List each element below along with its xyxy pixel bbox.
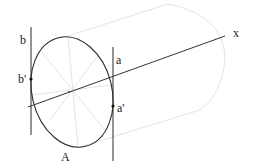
- label-b: b: [20, 33, 26, 47]
- point-center: [68, 91, 70, 93]
- ellipse-a: [20, 28, 125, 156]
- point-b-prime: [29, 77, 32, 80]
- point-a-prime: [111, 104, 114, 107]
- label-a: a: [116, 53, 122, 67]
- label-ellipse-a: A: [61, 150, 70, 164]
- label-x: x: [233, 26, 239, 40]
- label-b-prime: b': [18, 72, 26, 86]
- construction-lines: [31, 4, 225, 148]
- label-a-prime: a': [117, 101, 125, 115]
- ellipse-projection-diagram: x b b' a a' A: [0, 0, 257, 165]
